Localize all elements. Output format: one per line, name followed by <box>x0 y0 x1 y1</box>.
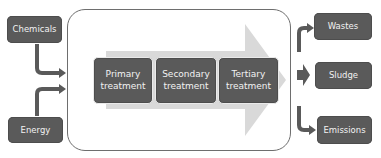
sludge-label: Sludge <box>329 70 358 81</box>
stage-tertiary-treatment: Tertiarytreatment <box>218 57 279 104</box>
energy-label: Energy <box>21 125 51 136</box>
stage-secondary-treatment: Secondarytreatment <box>155 57 217 104</box>
stage-primary-treatment: Primarytreatment <box>93 57 153 104</box>
wastes-connector-arrow <box>299 28 308 52</box>
tertiary-line1: Tertiary <box>226 69 271 80</box>
primary-line1: Primary <box>100 69 145 80</box>
sludge-arrow <box>297 64 310 86</box>
emissions-label: Emissions <box>323 125 365 136</box>
input-energy: Energy <box>8 117 63 143</box>
tertiary-line2: treatment <box>226 81 271 92</box>
energy-arrowhead-icon <box>59 84 66 94</box>
chemicals-arrowhead-icon <box>59 68 66 78</box>
primary-line2: treatment <box>100 81 145 92</box>
secondary-line1: Secondary <box>162 69 210 80</box>
chemicals-connector-arrow <box>37 44 60 73</box>
output-wastes: Wastes <box>314 13 372 40</box>
output-sludge: Sludge <box>315 62 372 89</box>
wastes-arrowhead-icon <box>307 23 314 33</box>
secondary-line2: treatment <box>162 81 210 92</box>
output-emissions: Emissions <box>317 116 372 144</box>
input-chemicals: Chemicals <box>7 16 62 43</box>
emissions-connector-arrow <box>299 106 310 130</box>
emissions-arrowhead-icon <box>309 125 316 135</box>
wastes-label: Wastes <box>328 21 359 32</box>
chemicals-label: Chemicals <box>13 24 57 35</box>
energy-connector-arrow <box>37 89 60 116</box>
